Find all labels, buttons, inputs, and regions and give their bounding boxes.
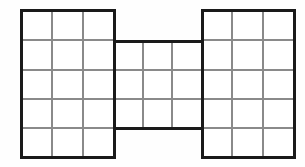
left-block-fill: [21, 10, 114, 157]
middle-block-fill: [114, 41, 202, 128]
right-block-fill: [202, 10, 294, 157]
figure-canvas: [0, 0, 305, 167]
h-shape-grid-svg: [0, 0, 305, 167]
